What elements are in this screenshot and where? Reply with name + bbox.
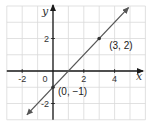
y-tick-label: -2: [41, 99, 49, 109]
x-tick-label: 4: [112, 74, 117, 84]
coordinate-graph: -20242-2 (0, −1)(3, 2) x y: [0, 0, 147, 122]
x-tick-label: 0: [42, 74, 47, 84]
x-tick-label: 2: [81, 74, 86, 84]
x-axis-label: x: [136, 70, 143, 83]
data-point: [51, 85, 55, 89]
data-point: [97, 37, 101, 41]
series-line: [27, 8, 129, 115]
y-tick-label: 2: [44, 34, 49, 44]
y-axis-label: y: [41, 5, 49, 18]
plot-line: [27, 8, 129, 115]
point-label: (0, −1): [58, 86, 87, 97]
point-label: (3, 2): [109, 40, 132, 51]
x-tick-label: -2: [18, 74, 26, 84]
